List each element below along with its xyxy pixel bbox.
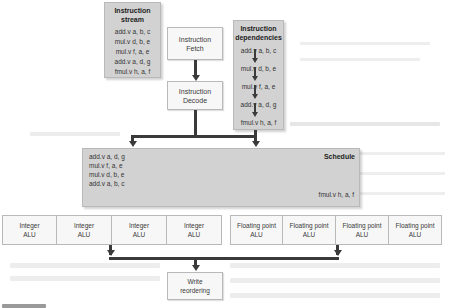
write-label: reordering [180,286,210,295]
alu-label: ALU [303,230,316,239]
decode-label: Decode [183,96,207,105]
background-bleed [360,152,445,155]
integer-alu-group: Integer ALU Integer ALU Integer ALU Inte… [2,215,222,245]
queued-instruction: add.v a, d, g [89,152,125,161]
dependencies-title: dependencies [235,33,282,42]
arrow-head [252,94,258,99]
background-bleed [10,263,160,268]
connector-horizontal [131,135,257,138]
background-bleed [360,172,445,175]
alu-label: ALU [356,230,369,239]
fp-alu-group: Floating point ALU Floating point ALU Fl… [230,215,442,245]
dependency-instruction: add.v a, b, c [241,42,276,60]
dependency-instruction: add.v a, d, g [241,96,277,114]
fp-queued-instruction: fmul.v h, a, f [319,190,354,200]
alu-label: Floating point [289,221,328,230]
alu-label: ALU [78,230,91,239]
alu-label: Integer [129,221,149,230]
instruction-stream-box: Instruction stream add.v a, b, c mul.v d… [104,2,161,78]
fp-alu: Floating point ALU [336,215,389,245]
arrow-head [252,112,258,117]
background-bleed [230,263,440,268]
background-bleed [230,293,440,298]
background-bleed [290,122,440,126]
instruction: fmul.v h, a, f [115,67,150,77]
background-bleed [360,192,445,195]
alu-label: ALU [250,230,263,239]
connector-decode-down [194,110,197,137]
connector-bottom-horizontal [109,257,339,260]
fetch-label: Instruction [179,35,211,44]
instruction: add.v a, d, g [115,57,151,67]
alu-label: Floating point [237,221,276,230]
background-bleed [300,42,430,45]
integer-alu: Integer ALU [112,215,167,245]
alu-label: ALU [133,230,146,239]
background-bleed [300,58,420,61]
dependency-instruction: mul.v f, a, e [242,78,276,96]
fp-alu: Floating point ALU [283,215,336,245]
arrow-head [252,76,258,81]
background-bleed [30,132,120,136]
alu-label: Integer [74,221,94,230]
fp-alu: Floating point ALU [389,215,442,245]
arrow-head [129,141,137,147]
arrow-fetch-to-decode [194,60,197,75]
alu-label: ALU [23,230,36,239]
fetch-label: Fetch [186,44,204,53]
arrow-head [252,141,260,147]
decode-label: Instruction [179,87,211,96]
arrow-head [107,250,115,256]
instruction-fetch-box: Instruction Fetch [167,27,223,60]
write-label: Write [187,277,202,286]
instruction: mul.v f, a, e [116,47,150,57]
arrow-head [252,58,258,63]
background-bleed [230,278,440,283]
alu-label: Floating point [395,221,434,230]
instruction-stream-title: Instruction [114,6,150,15]
schedule-box: Schedule add.v a, d, g mul.v f, a, e mul… [82,148,360,207]
queued-instruction: add.v a, b, c [89,179,125,188]
instruction-dependencies-box: Instruction dependencies add.v a, b, c m… [233,20,284,130]
instruction: add.v a, b, c [115,27,150,37]
arrow-head [334,250,342,256]
alu-label: Integer [184,221,204,230]
alu-label: Floating point [342,221,381,230]
instruction-stream-title: stream [121,15,144,24]
write-reordering-box: Write reordering [167,272,223,300]
arrow-head [192,265,200,271]
schedule-title: Schedule [324,152,355,161]
integer-alu: Integer ALU [167,215,222,245]
alu-label: ALU [188,230,201,239]
fp-alu: Floating point ALU [230,215,283,245]
figure-caption-fragment [2,304,46,308]
integer-alu: Integer ALU [57,215,112,245]
dependency-instruction: mul.v d, b, e [241,60,276,78]
queued-instruction: mul.v d, b, e [89,170,125,179]
integer-queue: add.v a, d, g mul.v f, a, e mul.v d, b, … [89,152,125,188]
integer-alu: Integer ALU [2,215,57,245]
background-bleed [10,276,160,281]
instruction-decode-box: Instruction Decode [167,81,223,110]
alu-label: ALU [409,230,422,239]
instruction: mul.v d, b, e [115,37,150,47]
dependency-instruction: fmul.v h, a, f [241,114,276,132]
queued-instruction: mul.v f, a, e [89,161,125,170]
alu-label: Integer [19,221,39,230]
dependencies-title: Instruction [240,24,276,33]
